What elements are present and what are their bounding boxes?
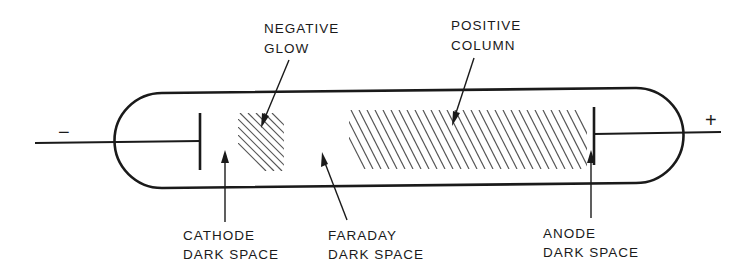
svg-text:COLUMN: COLUMN: [451, 38, 516, 53]
label-positive-column: POSITIVE COLUMN: [451, 18, 521, 53]
svg-text:ANODE: ANODE: [543, 226, 596, 241]
label-negative-glow: NEGATIVE GLOW: [264, 21, 339, 56]
cathode-minus-sign: −: [58, 121, 70, 143]
label-anode-dark-space: ANODE DARK SPACE: [543, 226, 639, 260]
svg-text:DARK SPACE: DARK SPACE: [328, 247, 424, 262]
negative-glow-leader: [264, 60, 289, 120]
faraday-dark-space-leader: [325, 163, 347, 220]
anode-lead-wire: [594, 132, 721, 134]
svg-text:DARK SPACE: DARK SPACE: [543, 245, 639, 260]
negative-glow-arrowhead: [261, 113, 269, 128]
svg-text:DARK SPACE: DARK SPACE: [183, 247, 279, 262]
cathode-dark-space-arrowhead: [221, 150, 229, 163]
positive-column-leader: [455, 58, 474, 116]
positive-column-region: [335, 110, 605, 169]
svg-text:CATHODE: CATHODE: [183, 228, 255, 243]
svg-text:GLOW: GLOW: [264, 41, 309, 56]
label-cathode-dark-space: CATHODE DARK SPACE: [183, 228, 279, 262]
faraday-dark-space-arrowhead: [321, 152, 328, 167]
discharge-tube-diagram: − + NEGATIVE GLOW POSITIVE COLUMN CATHOD…: [0, 0, 755, 278]
svg-text:NEGATIVE: NEGATIVE: [264, 21, 339, 36]
svg-text:POSITIVE: POSITIVE: [451, 18, 521, 33]
label-faraday-dark-space: FARADAY DARK SPACE: [328, 228, 424, 262]
svg-text:FARADAY: FARADAY: [328, 228, 397, 243]
anode-plus-sign: +: [705, 109, 717, 131]
